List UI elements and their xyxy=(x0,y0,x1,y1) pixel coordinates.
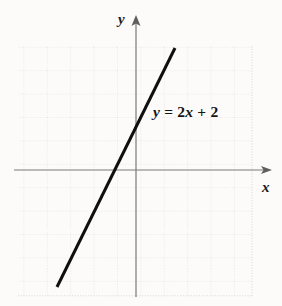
x-axis-label: x xyxy=(262,180,270,195)
grid-area xyxy=(18,46,252,296)
equation-variable-x: x xyxy=(185,103,193,120)
graph-figure: y x y = 2x + 2 xyxy=(0,0,282,306)
coordinate-plane xyxy=(0,0,282,306)
y-axis-label: y xyxy=(118,12,125,27)
equation-annotation: y = 2x + 2 xyxy=(153,103,218,121)
equation-plus: + xyxy=(193,103,210,120)
equation-constant: 2 xyxy=(210,103,218,120)
equation-equals: = xyxy=(160,103,177,120)
